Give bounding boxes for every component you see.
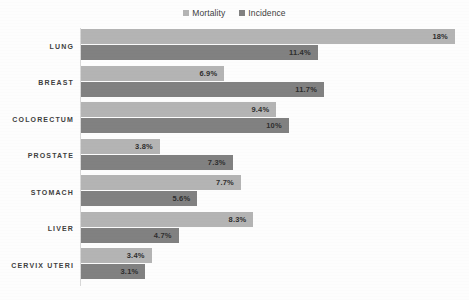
bar-incidence[interactable]: 7.3% — [81, 155, 233, 170]
legend-item-label: Incidence — [248, 9, 285, 18]
bar-value-label: 7.7% — [216, 178, 241, 187]
category-label-liver: LIVER — [0, 211, 74, 247]
category-label-prostate: PROSTATE — [0, 138, 74, 174]
bar-pair: 7.7%5.6% — [81, 174, 469, 210]
bar-pair: 8.3%4.7% — [81, 211, 469, 247]
category-label-cervix-uteri: CERVIX UTERI — [0, 247, 74, 283]
legend-item-incidence[interactable]: Incidence — [239, 9, 285, 18]
legend-item-label: Mortality — [192, 9, 225, 18]
bar-value-label: 3.1% — [121, 267, 146, 276]
bar-incidence[interactable]: 10% — [81, 118, 289, 133]
bar-value-label: 7.3% — [208, 158, 233, 167]
bar-value-label: 11.4% — [289, 48, 318, 57]
bar-groups: LUNG18%11.4%BREAST6.9%11.7%COLORECTUM9.4… — [0, 28, 469, 284]
bar-pair: 18%11.4% — [81, 28, 469, 64]
bar-value-label: 3.8% — [135, 142, 160, 151]
category-label-stomach: STOMACH — [0, 174, 74, 210]
chart-legend: Mortality Incidence — [0, 6, 469, 20]
bar-value-label: 8.3% — [229, 215, 254, 224]
bar-mortality[interactable]: 7.7% — [81, 175, 241, 190]
legend-item-mortality[interactable]: Mortality — [183, 9, 225, 18]
bar-pair: 3.4%3.1% — [81, 247, 469, 283]
bar-group: LUNG18%11.4% — [0, 28, 469, 64]
bar-chart: Mortality Incidence LUNG18%11.4%BREAST6.… — [0, 0, 469, 300]
category-label-colorectum: COLORECTUM — [0, 101, 74, 137]
square-swatch-icon — [239, 10, 245, 16]
bar-group: STOMACH7.7%5.6% — [0, 174, 469, 210]
bar-incidence[interactable]: 4.7% — [81, 228, 179, 243]
bar-incidence[interactable]: 11.4% — [81, 45, 318, 60]
bar-value-label: 11.7% — [295, 85, 324, 94]
bar-value-label: 5.6% — [172, 194, 197, 203]
bar-group: PROSTATE3.8%7.3% — [0, 138, 469, 174]
bar-group: LIVER8.3%4.7% — [0, 211, 469, 247]
bar-mortality[interactable]: 3.4% — [81, 248, 152, 263]
bar-value-label: 10% — [266, 121, 289, 130]
bar-value-label: 4.7% — [154, 231, 179, 240]
bar-incidence[interactable]: 11.7% — [81, 82, 324, 97]
category-label-breast: BREAST — [0, 65, 74, 101]
bar-mortality[interactable]: 6.9% — [81, 66, 224, 81]
bar-mortality[interactable]: 8.3% — [81, 212, 253, 227]
bar-pair: 3.8%7.3% — [81, 138, 469, 174]
bar-group: COLORECTUM9.4%10% — [0, 101, 469, 137]
bar-group: BREAST6.9%11.7% — [0, 65, 469, 101]
bar-group: CERVIX UTERI3.4%3.1% — [0, 247, 469, 283]
bar-value-label: 9.4% — [251, 105, 276, 114]
bar-incidence[interactable]: 5.6% — [81, 191, 197, 206]
bar-mortality[interactable]: 9.4% — [81, 102, 276, 117]
bar-incidence[interactable]: 3.1% — [81, 264, 145, 279]
category-label-lung: LUNG — [0, 28, 74, 64]
plot-area: LUNG18%11.4%BREAST6.9%11.7%COLORECTUM9.4… — [0, 26, 469, 294]
bar-value-label: 18% — [432, 32, 455, 41]
bar-mortality[interactable]: 18% — [81, 29, 455, 44]
square-swatch-icon — [183, 10, 189, 16]
bar-value-label: 3.4% — [127, 251, 152, 260]
bar-pair: 6.9%11.7% — [81, 65, 469, 101]
bar-pair: 9.4%10% — [81, 101, 469, 137]
bar-value-label: 6.9% — [199, 69, 224, 78]
bar-mortality[interactable]: 3.8% — [81, 139, 160, 154]
